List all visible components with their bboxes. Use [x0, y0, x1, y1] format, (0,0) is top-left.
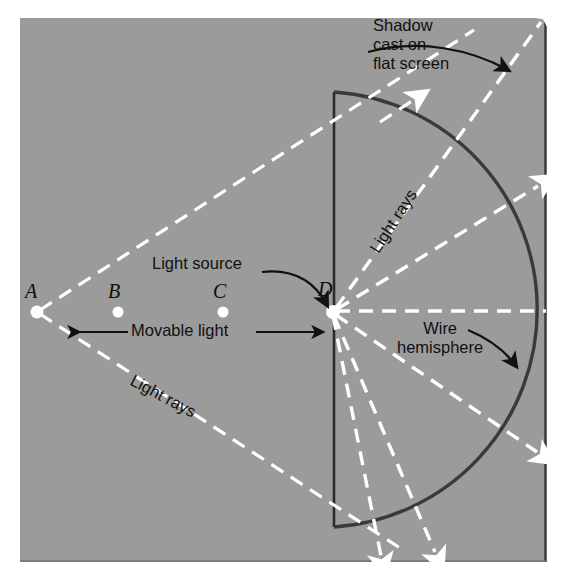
dot-c [218, 307, 229, 318]
shadow-cast-label: Shadow cast on flat screen [373, 16, 449, 73]
dot-d [326, 305, 340, 319]
point-label-a: A [25, 280, 37, 303]
light-source-label: Light source [152, 254, 242, 273]
movable-light-label: Movable light [131, 321, 228, 340]
diagram-canvas [0, 0, 562, 581]
figure-background [20, 18, 546, 562]
point-label-d: D [318, 278, 332, 301]
dot-a [31, 306, 44, 319]
point-label-c: C [213, 280, 226, 303]
physics-diagram: A B C D Shadow cast on flat screen Light… [0, 0, 562, 581]
wire-hemisphere-label: Wire hemisphere [397, 319, 483, 357]
point-label-b: B [108, 280, 120, 303]
dot-b [113, 307, 124, 318]
